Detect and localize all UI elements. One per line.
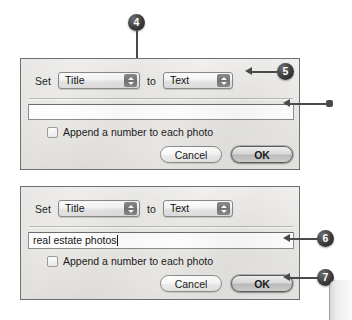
- dialog-2-text-input-value: real estate photos: [29, 235, 116, 246]
- chevron-down-icon: [221, 82, 227, 85]
- updown-arrows-icon: [217, 74, 230, 87]
- updown-arrows-icon: [124, 74, 137, 87]
- dialog-1-append-number-label: Append a number to each photo: [63, 126, 213, 138]
- chevron-up-icon: [128, 77, 134, 80]
- chevron-up-icon: [221, 205, 227, 208]
- dialog-1-ok-button[interactable]: OK: [231, 146, 293, 163]
- dialog-1-separator: [29, 98, 293, 100]
- dialog-1-set-label: Set: [35, 75, 51, 87]
- chevron-up-icon: [128, 205, 134, 208]
- chevron-down-icon: [128, 82, 134, 85]
- dialog-1-attribute-select[interactable]: Title: [58, 72, 140, 89]
- dialog-2-append-number-checkbox-row[interactable]: Append a number to each photo: [47, 255, 213, 267]
- callout-7-arrowhead: [283, 273, 290, 281]
- dialog-2-source-select-value: Text: [164, 203, 189, 214]
- dialog-1-source-select-value: Text: [164, 75, 189, 86]
- chevron-down-icon: [221, 210, 227, 213]
- text-input-callout-arrowhead: [283, 99, 290, 107]
- screenshot-stage: 4 Set Title to Text: [0, 0, 352, 320]
- dialog-1-cancel-button[interactable]: Cancel: [160, 146, 222, 163]
- dialog-1-text-input[interactable]: [28, 104, 294, 120]
- callout-badge-6: 6: [317, 230, 334, 247]
- dialog-2-append-number-checkbox[interactable]: [47, 256, 58, 267]
- dialog-2-button-row: Cancel OK: [160, 275, 293, 292]
- rename-dialog-empty: Set Title to Text: [20, 58, 300, 170]
- text-input-callout-endpoint-dot: [326, 100, 333, 107]
- dialog-1-append-number-checkbox-row[interactable]: Append a number to each photo: [47, 126, 213, 138]
- page-corner-artifact: [329, 280, 352, 320]
- dialog-1-field-row: Set Title to Text: [35, 72, 233, 89]
- dialog-1-button-row: Cancel OK: [160, 146, 293, 163]
- dialog-2-source-select[interactable]: Text: [163, 200, 233, 217]
- callout-7-leader-line: [289, 277, 318, 279]
- updown-arrows-icon: [124, 202, 137, 215]
- dialog-1-to-label: to: [147, 75, 156, 87]
- dialog-2-separator: [29, 226, 293, 228]
- dialog-2-to-label: to: [147, 203, 156, 215]
- updown-arrows-icon: [217, 202, 230, 215]
- dialog-2-set-label: Set: [35, 203, 51, 215]
- dialog-2-attribute-select[interactable]: Title: [58, 200, 140, 217]
- chevron-up-icon: [221, 77, 227, 80]
- dialog-2-append-number-label: Append a number to each photo: [63, 255, 213, 267]
- dialog-1-append-number-checkbox[interactable]: [47, 127, 58, 138]
- dialog-2-text-input[interactable]: real estate photos: [28, 232, 294, 249]
- dialog-1-source-select[interactable]: Text: [163, 72, 233, 89]
- callout-6-leader-line: [289, 238, 318, 240]
- dialog-1-body: Set Title to Text: [21, 59, 299, 169]
- dialog-1-attribute-select-value: Title: [59, 75, 84, 86]
- dialog-2-attribute-select-value: Title: [59, 203, 84, 214]
- callout-badge-5: 5: [277, 63, 294, 80]
- callout-4-leader-line: [136, 30, 138, 61]
- callout-5-arrowhead: [245, 67, 252, 75]
- text-cursor-icon: [117, 235, 118, 246]
- callout-6-arrowhead: [283, 234, 290, 242]
- rename-dialog-filled: Set Title to Text: [20, 186, 300, 300]
- text-input-callout-leader-line: [289, 103, 327, 105]
- callout-5-leader-line: [251, 71, 278, 73]
- dialog-2-field-row: Set Title to Text: [35, 200, 233, 217]
- dialog-2-body: Set Title to Text: [21, 187, 299, 299]
- dialog-2-cancel-button[interactable]: Cancel: [160, 275, 222, 292]
- callout-badge-4: 4: [128, 14, 145, 31]
- chevron-down-icon: [128, 210, 134, 213]
